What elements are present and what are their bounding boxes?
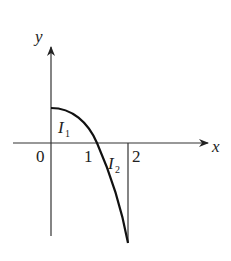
region-label-i1-subscript: 1 <box>65 128 70 139</box>
origin-label: 0 <box>36 147 45 166</box>
y-axis-label: y <box>33 27 43 46</box>
region-label-i1: I <box>57 118 65 137</box>
tick-label-1: 1 <box>84 147 93 166</box>
region-label-i2-subscript: 2 <box>115 164 120 175</box>
region-label-i2: I <box>107 154 115 173</box>
x-axis-label: x <box>211 137 220 156</box>
tick-label-2: 2 <box>132 147 141 166</box>
integral-diagram: y x 0 1 2 I 1 I 2 <box>0 0 231 261</box>
